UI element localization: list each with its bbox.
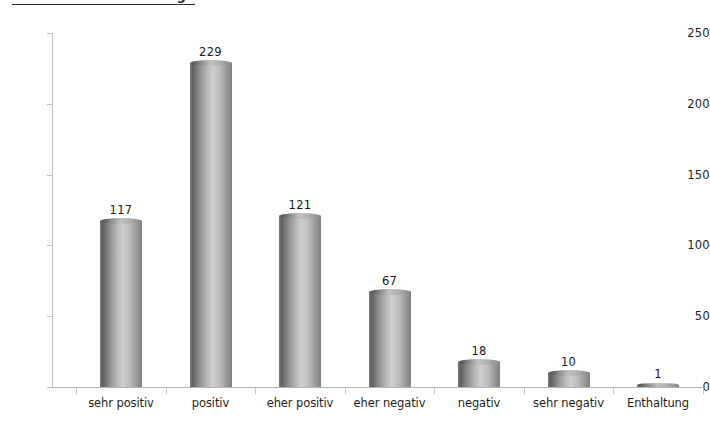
y-axis-tick-mark bbox=[47, 245, 53, 246]
y-axis-tick-label: 100 bbox=[666, 238, 710, 252]
x-axis-tick-mark bbox=[255, 388, 256, 394]
bar-value-label: 117 bbox=[91, 203, 151, 217]
y-axis-tick-mark bbox=[47, 387, 53, 388]
bar-eher-negativ[interactable] bbox=[369, 292, 411, 387]
y-axis-tick-label: 250 bbox=[666, 26, 710, 40]
y-axis-tick-mark bbox=[47, 316, 53, 317]
bar-value-label: 10 bbox=[539, 355, 599, 369]
page-title-text: Antworten auf die Frage bbox=[12, 0, 195, 5]
y-axis-tick-label: 50 bbox=[666, 309, 710, 323]
bar-eher-positiv[interactable] bbox=[279, 216, 321, 387]
y-axis-tick-mark bbox=[47, 104, 53, 105]
bar-sehr-negativ[interactable] bbox=[548, 373, 590, 387]
bar-value-label: 229 bbox=[181, 45, 241, 59]
x-axis-tick-mark bbox=[345, 388, 346, 394]
category-label-sehr-positiv: sehr positiv bbox=[69, 396, 173, 410]
bar-value-label: 1 bbox=[628, 367, 688, 381]
bar-Enthaltung[interactable] bbox=[637, 385, 679, 387]
x-axis-tick-mark bbox=[613, 388, 614, 394]
category-label-eher-negativ: eher negativ bbox=[338, 396, 442, 410]
bar-positiv[interactable] bbox=[190, 63, 232, 387]
bar-value-label: 67 bbox=[360, 274, 420, 288]
bar-negativ[interactable] bbox=[458, 362, 500, 387]
y-axis-tick-mark bbox=[47, 175, 53, 176]
x-axis-tick-mark bbox=[76, 388, 77, 394]
category-label-eher-positiv: eher positiv bbox=[248, 396, 352, 410]
category-label-positiv: positiv bbox=[159, 396, 263, 410]
x-axis-tick-mark bbox=[703, 388, 704, 394]
page-title: Antworten auf die Frage bbox=[12, 0, 387, 7]
y-axis-tick-mark bbox=[47, 33, 53, 34]
category-label-sehr-negativ: sehr negativ bbox=[517, 396, 621, 410]
y-axis-tick-label: 150 bbox=[666, 168, 710, 182]
y-axis-line bbox=[52, 33, 53, 388]
x-axis-tick-mark bbox=[166, 388, 167, 394]
bar-value-label: 18 bbox=[449, 344, 509, 358]
x-axis-tick-mark bbox=[434, 388, 435, 394]
x-axis-tick-mark bbox=[524, 388, 525, 394]
category-label-Enthaltung: Enthaltung bbox=[606, 396, 710, 410]
bar-sehr-positiv[interactable] bbox=[100, 221, 142, 387]
bar-chart: Antworten auf die Frage 050100150200250 … bbox=[0, 0, 710, 443]
bar-value-label: 121 bbox=[270, 198, 330, 212]
x-axis-line bbox=[52, 387, 702, 388]
y-axis-tick-label: 200 bbox=[666, 97, 710, 111]
category-label-negativ: negativ bbox=[427, 396, 531, 410]
